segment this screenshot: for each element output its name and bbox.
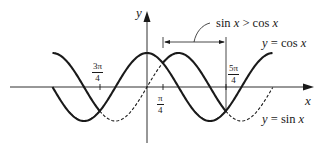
sin-curve-dashed-left — [100, 63, 163, 121]
tick-label-pi-4: π 4 — [157, 94, 164, 115]
tick-label-den: 4 — [157, 105, 164, 115]
sin-cos-diagram: y x 3π 4 π 4 5π 4 y = cos x y = sin x si… — [0, 0, 323, 151]
x-axis-label: x — [305, 94, 311, 107]
sin-curve-label: y = sin x — [262, 113, 304, 126]
tick-label-den: 4 — [92, 73, 103, 83]
sin-curve-solid-middle — [163, 53, 226, 111]
interval-arrow-left-icon — [164, 40, 170, 44]
cos-curve-label: y = cos x — [262, 37, 306, 50]
interval-annotation-label: sin x > cos x — [216, 17, 278, 30]
interval-leader-line — [194, 23, 210, 42]
interval-arrow-right-icon — [219, 40, 225, 44]
x-axis-arrow-icon — [303, 84, 314, 91]
tick-label-neg-3pi-4: 3π 4 — [92, 62, 103, 83]
tick-label-num: 5π — [228, 64, 239, 75]
tick-label-den: 4 — [228, 75, 239, 85]
tick-label-num: π — [157, 94, 164, 105]
tick-label-num: 3π — [92, 62, 103, 73]
y-axis-arrow-icon — [144, 11, 151, 22]
y-axis-label: y — [136, 6, 142, 19]
tick-label-5pi-4: 5π 4 — [228, 64, 239, 85]
